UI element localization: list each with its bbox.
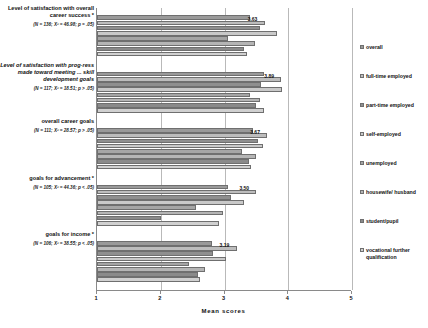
legend-item[interactable]: housewife/ husband <box>360 189 428 196</box>
bar <box>97 87 282 92</box>
bar <box>97 139 258 144</box>
legend-item[interactable]: student/pupil <box>360 218 428 225</box>
bar <box>97 128 253 133</box>
legend-swatch-icon <box>360 219 364 223</box>
category-title: goals for advancement * <box>0 175 94 182</box>
category-title: Level of satisfaction with overall caree… <box>0 5 94 19</box>
bar <box>97 52 247 57</box>
x-tick-label: 1 <box>94 295 97 301</box>
bar <box>97 251 213 256</box>
bar <box>97 47 244 52</box>
bar <box>97 31 277 36</box>
legend-item[interactable]: overall <box>360 44 428 51</box>
legend-swatch-icon <box>360 190 364 194</box>
bar <box>97 77 281 82</box>
bar <box>97 98 260 103</box>
bar-value-label: 3.89 <box>264 73 274 79</box>
bar <box>97 41 255 46</box>
category-stat: (N = 136; X² = 46.98; p = .05) <box>0 22 94 28</box>
bar <box>97 26 260 31</box>
bar-value-label: 3.63 <box>248 16 258 22</box>
legend-swatch-icon <box>360 103 364 107</box>
legend-label: student/pupil <box>366 218 399 225</box>
bar <box>97 144 263 149</box>
legend-swatch-icon <box>360 74 364 78</box>
bars-layer: 3.633.893.673.503.19 <box>97 8 351 290</box>
bar <box>97 93 250 98</box>
bar <box>97 211 223 216</box>
category-stat: (N = 111; X² = 28.57; p > .05) <box>0 128 94 134</box>
bar <box>97 165 251 170</box>
bar <box>97 241 212 246</box>
bar <box>97 149 242 154</box>
bar <box>97 133 267 138</box>
bar <box>97 15 250 20</box>
legend-swatch-icon <box>360 45 364 49</box>
category-label: overall career goals(N = 111; X² = 28.57… <box>0 118 96 134</box>
legend-item[interactable]: full-time employed <box>360 73 428 80</box>
bar <box>97 272 198 277</box>
plot-area: 3.633.893.673.503.19 <box>96 8 351 290</box>
bar <box>97 185 228 190</box>
bar-value-label: 3.50 <box>239 185 249 191</box>
bar <box>97 82 261 87</box>
bar <box>97 21 265 26</box>
bar <box>97 205 196 210</box>
bar-chart: Level of satisfaction with overall caree… <box>0 0 428 328</box>
bar-value-label: 3.19 <box>220 242 230 248</box>
bar <box>97 108 264 113</box>
category-stat: (N = 117; X² = 18.51; p > .05) <box>0 86 94 92</box>
bar <box>97 103 256 108</box>
x-axis: 12345 <box>96 290 351 305</box>
bar <box>97 154 256 159</box>
bar <box>97 72 264 77</box>
category-stat: (N = 105; X² = 44.36; p < .05) <box>0 185 94 191</box>
bar <box>97 221 219 226</box>
x-tick-mark <box>351 291 352 294</box>
x-tick-mark <box>96 291 97 294</box>
bar <box>97 246 237 251</box>
bar <box>97 277 200 282</box>
category-title: goals for income * <box>0 231 94 238</box>
legend-item[interactable]: part-time employed <box>360 102 428 109</box>
bar <box>97 195 231 200</box>
x-tick-mark <box>224 291 225 294</box>
x-tick-label: 5 <box>349 295 352 301</box>
bar <box>97 190 256 195</box>
x-tick-mark <box>160 291 161 294</box>
legend-swatch-icon <box>360 132 364 136</box>
legend-label: unemployed <box>366 160 397 167</box>
x-tick-label: 3 <box>222 295 225 301</box>
category-label: goals for income *(N = 106; X² = 38.55; … <box>0 231 96 247</box>
legend-swatch-icon <box>360 248 364 252</box>
category-stat: (N = 106; X² = 38.55; p < .05) <box>0 241 94 247</box>
legend-item[interactable]: vocational further qualification <box>360 247 428 261</box>
legend-label: full-time employed <box>366 73 412 80</box>
category-axis: Level of satisfaction with overall caree… <box>0 0 96 290</box>
category-label: goals for advancement *(N = 105; X² = 44… <box>0 175 96 191</box>
bar <box>97 159 249 164</box>
bar-value-label: 3.67 <box>250 129 260 135</box>
bar <box>97 200 244 205</box>
category-label: Level of satisfaction with prog-ress mad… <box>0 62 96 92</box>
x-tick-label: 2 <box>158 295 161 301</box>
category-title: overall career goals <box>0 118 94 125</box>
legend-label: vocational further qualification <box>366 247 428 261</box>
legend-label: housewife/ husband <box>366 189 416 196</box>
legend-item[interactable]: self-employed <box>360 131 428 138</box>
legend-item[interactable]: unemployed <box>360 160 428 167</box>
legend-label: self-employed <box>366 131 401 138</box>
x-tick-label: 4 <box>286 295 289 301</box>
x-axis-title: Mean scores <box>96 308 351 314</box>
legend-label: overall <box>366 44 383 51</box>
bar <box>97 262 189 267</box>
category-title: Level of satisfaction with prog-ress mad… <box>0 62 94 83</box>
legend-label: part-time employed <box>366 102 414 109</box>
bar <box>97 257 226 262</box>
gridline <box>352 8 353 290</box>
bar <box>97 267 205 272</box>
bar <box>97 216 161 221</box>
x-tick-mark <box>287 291 288 294</box>
category-label: Level of satisfaction with overall caree… <box>0 5 96 28</box>
legend-swatch-icon <box>360 161 364 165</box>
